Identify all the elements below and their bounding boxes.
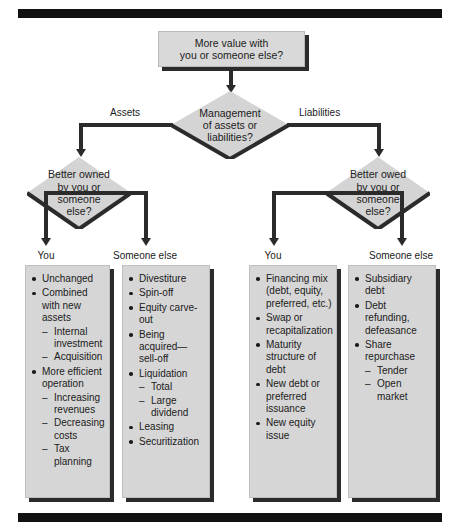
leaf-box-assets-you: UnchangedCombined with new assetsInterna… xyxy=(25,265,110,498)
root-question-text: More value with you or someone else? xyxy=(180,37,283,62)
bottom-rule xyxy=(18,513,442,522)
leaf-item-label: More efficient operation xyxy=(42,366,102,389)
leaf-list-liabilities-someone-else: Subsidiary debtDebt refunding, defeasanc… xyxy=(353,273,431,403)
leaf-subitem: Increasing revenues xyxy=(42,392,105,417)
arrow-left-you xyxy=(41,238,51,246)
leaf-item-label: Leasing xyxy=(139,421,174,432)
leaf-item-label: New equity issue xyxy=(266,417,315,440)
root-question-line1: More value with xyxy=(180,37,283,50)
leaf-item: Spin-off xyxy=(127,287,205,299)
leaf-item: Divestiture xyxy=(127,273,205,285)
leaf-item-label: Swap or recapitalization xyxy=(266,312,333,335)
column-label-1: You xyxy=(16,250,76,261)
leaf-item: Debt refunding, defeasance xyxy=(353,300,431,337)
leaf-subitem: Acquisition xyxy=(42,351,105,363)
arrow-left-other xyxy=(141,238,151,246)
leaf-item-label: Financing mix (debt, equity, preferred, … xyxy=(266,273,332,309)
leaf-box-assets-someone-else: DivestitureSpin-offEquity carve-outBeing… xyxy=(122,265,210,498)
connector-right-other-v xyxy=(400,191,404,240)
leaf-item: Equity carve-out xyxy=(127,302,205,327)
leaf-subitem: Internal investment xyxy=(42,326,105,351)
arrow-main-right xyxy=(374,149,384,157)
leaf-item: Unchanged xyxy=(30,273,105,285)
connector-main-left-h xyxy=(79,123,173,127)
leaf-item-label: Maturity structure of debt xyxy=(266,339,316,375)
leaf-subitem: Tender xyxy=(365,365,431,377)
leaf-item-label: Divestiture xyxy=(139,273,186,284)
connector-right-split-h xyxy=(272,191,404,195)
leaf-subitem: Tax planning xyxy=(42,443,105,468)
connector-left-split-h xyxy=(44,191,148,195)
leaf-item: Combined with new assetsInternal investm… xyxy=(30,287,105,363)
leaf-sublist: TenderOpen market xyxy=(365,365,431,403)
leaf-item-label: New debt or preferred issuance xyxy=(266,378,320,414)
leaf-item-label: Subsidiary debt xyxy=(365,273,412,296)
leaf-list-liabilities-you: Financing mix (debt, equity, preferred, … xyxy=(254,273,332,442)
connector-left-other-v xyxy=(144,191,148,240)
branch-label-assets: Assets xyxy=(110,107,140,118)
leaf-item: Leasing xyxy=(127,421,205,433)
leaf-subitem: Total xyxy=(139,381,205,393)
leaf-item-label: Liquidation xyxy=(139,368,187,379)
leaf-subitem: Open market xyxy=(365,378,431,403)
leaf-item: Share repurchaseTenderOpen market xyxy=(353,339,431,403)
leaf-box-liabilities-someone-else: Subsidiary debtDebt refunding, defeasanc… xyxy=(348,265,436,498)
column-label-4: Someone else xyxy=(362,250,440,261)
top-rule xyxy=(18,9,442,18)
leaf-item-label: Share repurchase xyxy=(365,339,415,362)
arrow-right-other xyxy=(397,238,407,246)
leaf-item: New equity issue xyxy=(254,417,332,442)
leaf-list-assets-someone-else: DivestitureSpin-offEquity carve-outBeing… xyxy=(127,273,205,448)
leaf-item: Swap or recapitalization xyxy=(254,312,332,337)
branch-label-liabilities: Liabilities xyxy=(299,107,340,118)
leaf-sublist: Internal investmentAcquisition xyxy=(42,326,105,364)
leaf-sublist: Increasing revenuesDecreasing costsTax p… xyxy=(42,392,105,468)
leaf-item-label: Combined with new assets xyxy=(42,287,88,323)
connector-left-you-v xyxy=(44,191,48,240)
leaf-item-label: Equity carve-out xyxy=(139,302,197,325)
leaf-subitem: Decreasing costs xyxy=(42,417,105,442)
leaf-item-label: Unchanged xyxy=(42,273,93,284)
connector-main-right-v xyxy=(377,123,381,151)
leaf-item: New debt or preferred issuance xyxy=(254,378,332,415)
diagram-canvas: More value with you or someone else? Man… xyxy=(0,0,460,532)
leaf-subitem: Large dividend xyxy=(139,395,205,420)
column-label-2: Someone else xyxy=(106,250,184,261)
leaf-item: Financing mix (debt, equity, preferred, … xyxy=(254,273,332,310)
column-label-3: You xyxy=(244,250,302,261)
leaf-item-label: Debt refunding, defeasance xyxy=(365,300,417,336)
leaf-item: Subsidiary debt xyxy=(353,273,431,298)
connector-main-left-v xyxy=(79,123,83,151)
leaf-item: More efficient operationIncreasing reven… xyxy=(30,366,105,468)
decision-main-shape xyxy=(171,91,289,159)
root-question-line2: you or someone else? xyxy=(180,49,283,62)
leaf-item: LiquidationTotalLarge dividend xyxy=(127,368,205,420)
arrow-right-you xyxy=(269,238,279,246)
leaf-box-liabilities-you: Financing mix (debt, equity, preferred, … xyxy=(249,265,337,498)
leaf-item: Being acquired—sell-off xyxy=(127,329,205,366)
connector-main-right-h xyxy=(287,123,381,127)
decision-main: Management of assets or liabilities? xyxy=(171,91,289,159)
leaf-item-label: Spin-off xyxy=(139,287,173,298)
leaf-sublist: TotalLarge dividend xyxy=(139,381,205,419)
leaf-list-assets-you: UnchangedCombined with new assetsInterna… xyxy=(30,273,105,468)
connector-right-you-v xyxy=(272,191,276,240)
root-question-box: More value with you or someone else? xyxy=(158,31,305,67)
leaf-item: Securitization xyxy=(127,436,205,448)
leaf-item-label: Being acquired—sell-off xyxy=(139,329,187,365)
leaf-item-label: Securitization xyxy=(139,436,199,447)
leaf-item: Maturity structure of debt xyxy=(254,339,332,376)
arrow-main-left xyxy=(76,149,86,157)
